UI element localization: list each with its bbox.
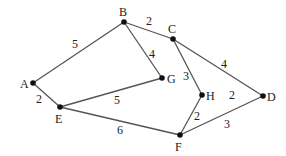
node-label-g: G [167,72,176,86]
edge-c-h [173,39,202,95]
edge-weight-e-f: 6 [117,123,123,137]
edge-weight-b-c: 2 [146,14,152,28]
edge-weight-a-b: 5 [72,37,78,51]
edge-weight-e-g: 5 [114,93,120,107]
edge-weights: 5224345623 [36,14,230,137]
node-label-f: F [175,140,182,154]
edge-c-d [173,39,263,96]
edge-f-d [180,96,263,135]
node-label-h: H [206,89,215,103]
nodes [30,19,266,138]
floating-labels: 2 [229,88,235,102]
edge-e-g [60,78,162,107]
edge-weight-a-e: 2 [36,92,42,106]
node-e [57,104,63,110]
floating-weight-label: 2 [229,88,235,102]
edge-weight-h-f: 2 [194,109,200,123]
node-g [159,75,165,81]
edge-weight-f-d: 3 [224,117,230,131]
node-f [177,132,183,138]
node-d [260,93,266,99]
edge-b-g [124,22,162,78]
node-c [170,36,176,42]
node-label-e: E [55,112,62,126]
edge-weight-c-h: 3 [183,69,189,83]
node-label-a: A [20,77,29,91]
node-b [121,19,127,25]
edge-weight-c-d: 4 [221,57,227,71]
graph-diagram: 5224345623 ABCDEFGH 2 [0,0,286,156]
node-a [30,80,36,86]
node-h [199,92,205,98]
edge-weight-b-g: 4 [149,47,155,61]
node-label-c: C [168,22,176,36]
edge-a-b [33,22,124,83]
node-label-d: D [267,90,276,104]
node-label-b: B [119,5,127,19]
